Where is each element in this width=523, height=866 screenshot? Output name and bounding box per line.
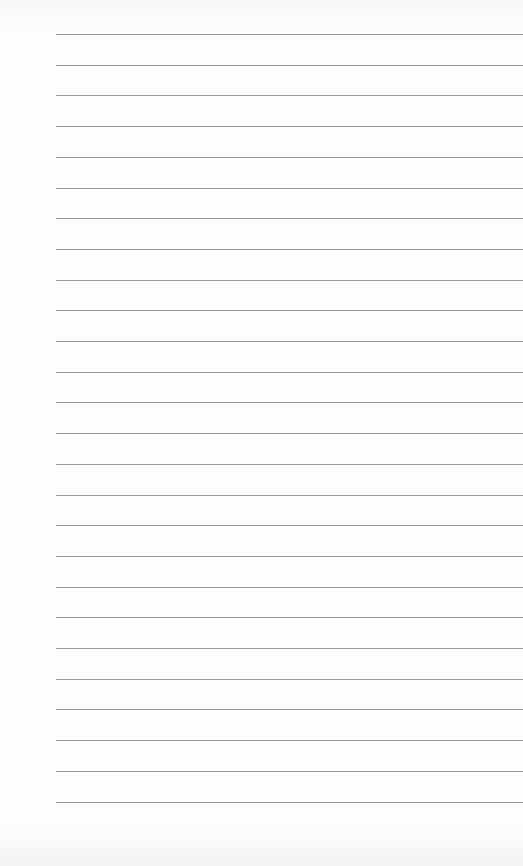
ruled-line (56, 679, 523, 680)
ruled-line (56, 402, 523, 403)
ruled-line (56, 464, 523, 465)
ruled-line (56, 249, 523, 250)
ruled-line (56, 802, 523, 803)
ruled-line (56, 740, 523, 741)
ruled-line (56, 95, 523, 96)
ruled-line (56, 372, 523, 373)
ruled-line (56, 65, 523, 66)
ruled-line (56, 433, 523, 434)
ruled-line (56, 495, 523, 496)
ruled-line (56, 556, 523, 557)
ruled-line (56, 310, 523, 311)
ruled-line (56, 218, 523, 219)
ruled-line (56, 188, 523, 189)
ruled-line (56, 617, 523, 618)
ruled-line (56, 771, 523, 772)
ruled-line (56, 587, 523, 588)
ruled-line (56, 280, 523, 281)
ruled-line (56, 126, 523, 127)
ruled-line (56, 341, 523, 342)
ruled-line (56, 157, 523, 158)
ruled-line (56, 525, 523, 526)
ruled-line (56, 34, 523, 35)
ruled-line (56, 648, 523, 649)
lined-paper-sheet (0, 0, 523, 866)
ruled-line (56, 709, 523, 710)
